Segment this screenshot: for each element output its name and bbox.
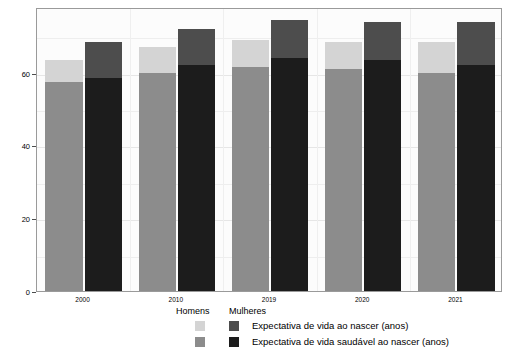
homens-2000-segment-life-expectancy	[45, 60, 82, 82]
homens-2019-bar[interactable]	[232, 40, 269, 291]
mulheres-2021-bar[interactable]	[457, 22, 494, 291]
legend-swatch-homens-life-expectancy	[195, 321, 205, 331]
homens-2000-segment-healthy-life-expectancy	[45, 82, 82, 291]
homens-2010-segment-life-expectancy	[139, 47, 176, 72]
x-axis-tick-label-2019: 2019	[262, 296, 276, 303]
homens-2000-bar[interactable]	[45, 60, 82, 291]
mulheres-2019-segment-life-expectancy	[271, 20, 308, 58]
homens-2019-segment-healthy-life-expectancy	[232, 67, 269, 291]
y-axis-tick-label-60: 60	[0, 69, 30, 78]
gridline-x-2021	[410, 9, 411, 291]
mulheres-2021-segment-healthy-life-expectancy	[457, 65, 494, 291]
mulheres-2000-segment-life-expectancy	[85, 42, 122, 78]
homens-2019-segment-life-expectancy	[232, 40, 269, 67]
homens-2020-segment-healthy-life-expectancy	[325, 69, 362, 291]
legend-header-homens: Homens	[176, 306, 210, 316]
homens-2010-segment-healthy-life-expectancy	[139, 73, 176, 291]
mulheres-2020-bar[interactable]	[364, 22, 401, 291]
plot-inner	[37, 9, 501, 291]
mulheres-2019-segment-healthy-life-expectancy	[271, 58, 308, 291]
mulheres-2020-segment-healthy-life-expectancy	[364, 60, 401, 291]
plot-area	[36, 8, 502, 292]
legend-swatch-mulheres-healthy-life-expectancy	[229, 337, 239, 347]
mulheres-2021-segment-life-expectancy	[457, 22, 494, 66]
x-axis-tick-label-2010: 2010	[169, 296, 183, 303]
legend-label-life-expectancy: Expectativa de vida ao nascer (anos)	[252, 320, 408, 331]
x-axis-tick-label-2000: 2000	[75, 296, 89, 303]
mulheres-2000-bar[interactable]	[85, 42, 122, 291]
mulheres-2010-bar[interactable]	[178, 29, 215, 291]
y-axis-tick-mark-0	[32, 292, 36, 293]
y-axis-tick-label-20: 20	[0, 215, 30, 224]
mulheres-2020-segment-life-expectancy	[364, 22, 401, 60]
homens-2021-segment-life-expectancy	[418, 42, 455, 73]
y-axis-tick-label-40: 40	[0, 142, 30, 151]
x-axis-tick-label-2020: 2020	[355, 296, 369, 303]
legend-label-healthy-life-expectancy: Expectativa de vida saudável ao nascer (…	[252, 336, 449, 347]
chart-figure: Expectativa de vida ao nascer (anos) 020…	[0, 0, 509, 364]
mulheres-2010-segment-life-expectancy	[178, 29, 215, 65]
legend-swatch-homens-healthy-life-expectancy	[195, 337, 205, 347]
homens-2020-bar[interactable]	[325, 42, 362, 291]
mulheres-2010-segment-healthy-life-expectancy	[178, 65, 215, 291]
mulheres-2000-segment-healthy-life-expectancy	[85, 78, 122, 291]
gridline-x-2020	[317, 9, 318, 291]
gridline-x-2019	[223, 9, 224, 291]
legend-swatch-mulheres-life-expectancy	[229, 321, 239, 331]
homens-2020-segment-life-expectancy	[325, 42, 362, 69]
mulheres-2019-bar[interactable]	[271, 20, 308, 291]
homens-2021-bar[interactable]	[418, 42, 455, 291]
homens-2021-segment-healthy-life-expectancy	[418, 73, 455, 291]
homens-2010-bar[interactable]	[139, 47, 176, 291]
x-axis-tick-label-2021: 2021	[448, 296, 462, 303]
legend-header-mulheres: Mulheres	[229, 306, 266, 316]
y-axis-tick-label-0: 0	[0, 288, 30, 297]
gridline-x-2010	[130, 9, 131, 291]
